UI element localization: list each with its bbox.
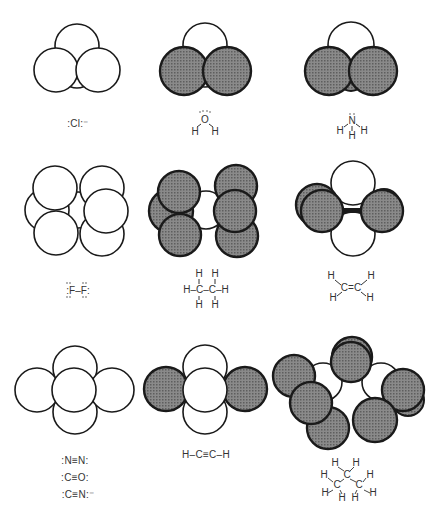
svg-text:H: H: [331, 457, 338, 468]
svg-text:H: H: [329, 292, 336, 303]
cn-label: :C≡N:⁻: [54, 489, 102, 501]
svg-text:O: O: [201, 114, 209, 125]
svg-text:H: H: [367, 270, 374, 281]
molecule-diagram: O H H N H H H :F–F: HH: [0, 0, 444, 520]
propane-formula: HH C HH CC HH HH: [320, 457, 376, 503]
svg-text:H: H: [366, 469, 373, 480]
svg-text:H: H: [360, 125, 367, 136]
svg-text:H: H: [327, 270, 334, 281]
water-model: [160, 23, 251, 95]
svg-text:C: C: [343, 469, 350, 480]
svg-text:H: H: [336, 125, 343, 136]
svg-text:H: H: [366, 292, 373, 303]
ethane-formula: HH H–C–C–H HH: [183, 268, 229, 310]
acetylene-model: [144, 345, 267, 434]
svg-text:H: H: [352, 457, 359, 468]
fluorine-formula: :F–F:: [66, 282, 89, 297]
svg-text:C=C: C=C: [341, 282, 361, 293]
svg-text:H: H: [195, 268, 202, 279]
svg-text:H–C–C–H: H–C–C–H: [183, 284, 229, 295]
ammonia-formula: N H H H: [336, 113, 367, 141]
svg-text:H: H: [195, 299, 202, 310]
chloride-model: [34, 24, 120, 92]
co-label: :C≡O:: [52, 472, 98, 484]
ethylene-formula: HH C=C HH: [327, 270, 374, 303]
svg-text::F–F:: :F–F:: [66, 285, 89, 296]
svg-text:H: H: [211, 126, 218, 137]
svg-text:H: H: [348, 130, 355, 141]
svg-text:H: H: [320, 469, 327, 480]
ammonia-model: [305, 22, 397, 95]
acetylene-label: H–C≡C–H: [175, 449, 237, 461]
svg-text:C: C: [355, 479, 362, 490]
svg-text:H: H: [211, 268, 218, 279]
nitrogen-model: [15, 346, 134, 434]
propane-model: [273, 337, 424, 449]
svg-text:H: H: [211, 299, 218, 310]
svg-text:H: H: [369, 487, 376, 498]
chloride-label: :Cl:⁻: [58, 118, 98, 130]
svg-text:H: H: [321, 487, 328, 498]
svg-text:C: C: [333, 479, 340, 490]
n2-label: :N≡N:: [52, 455, 98, 467]
fluorine-model: [25, 166, 128, 256]
svg-text:H: H: [191, 126, 198, 137]
ethane-model: [149, 165, 258, 257]
ethylene-model: [296, 161, 403, 256]
svg-text:N: N: [348, 115, 355, 126]
water-formula: O H H: [191, 110, 218, 137]
